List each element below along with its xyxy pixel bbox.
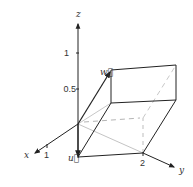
z-tick-0-5: 0.5	[63, 84, 76, 94]
x-axis	[35, 124, 78, 153]
vector-w	[78, 72, 110, 124]
parallelepiped-edges	[78, 65, 176, 157]
y-tick-2: 2	[140, 158, 145, 168]
z-tick-1: 1	[64, 48, 69, 58]
vector-u-label: u⃗	[68, 153, 79, 163]
z-axis-label: z	[75, 9, 81, 19]
hidden-edges	[78, 65, 176, 153]
x-axis-label: x	[24, 150, 29, 160]
diagram-canvas: z 1 0.5 x 1 y 2 u⃗ w⃗	[0, 0, 193, 187]
parallelepiped-diagram: z 1 0.5 x 1 y 2 u⃗ w⃗	[0, 0, 193, 187]
y-axis	[143, 152, 174, 167]
y-axis-label: y	[178, 165, 185, 175]
x-tick-1: 1	[44, 150, 49, 160]
